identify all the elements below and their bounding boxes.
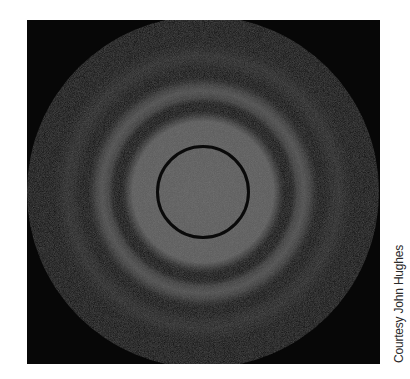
- photo-credit: Courtesy John Hughes: [393, 245, 405, 363]
- diffraction-pattern-image: [27, 20, 380, 364]
- diffraction-rings: [27, 20, 379, 364]
- airy-rings-graphic: [27, 20, 380, 364]
